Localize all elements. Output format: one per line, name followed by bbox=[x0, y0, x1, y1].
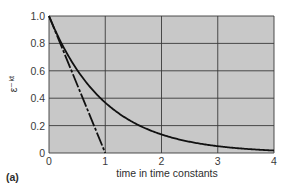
y-tick-label: 0 bbox=[39, 147, 45, 159]
x-axis-title: time in time constants bbox=[116, 167, 218, 179]
x-tick-label: 0 bbox=[46, 155, 52, 167]
y-tick-label: 0.2 bbox=[30, 120, 45, 132]
y-axis-title: ε⁻ᵏᵗ bbox=[7, 76, 19, 93]
x-axis-ticks: 01234 bbox=[46, 155, 277, 167]
x-tick-label: 3 bbox=[215, 155, 221, 167]
x-tick-label: 1 bbox=[102, 155, 108, 167]
y-tick-label: 0.6 bbox=[30, 65, 45, 77]
y-tick-label: 1.0 bbox=[30, 10, 45, 22]
x-tick-label: 4 bbox=[271, 155, 277, 167]
chart: 01234 00.20.40.60.81.0 ε⁻ᵏᵗ time in time… bbox=[0, 0, 282, 189]
x-tick-label: 2 bbox=[159, 155, 165, 167]
y-tick-label: 0.4 bbox=[30, 92, 45, 104]
y-tick-label: 0.8 bbox=[30, 37, 45, 49]
y-axis-ticks: 00.20.40.60.81.0 bbox=[30, 10, 45, 159]
panel-label: (a) bbox=[6, 171, 19, 183]
